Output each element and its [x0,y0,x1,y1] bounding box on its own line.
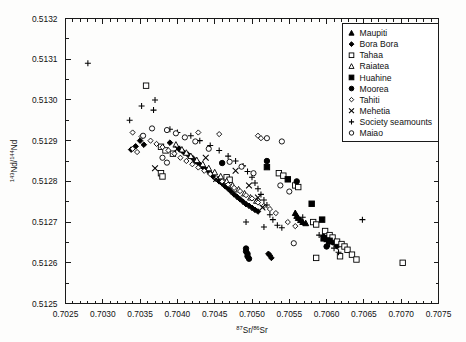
legend-label-bora-bora: Bora Bora [360,39,399,49]
y-tick-label: 0.5125 [32,299,58,309]
data-point [243,219,249,225]
data-point [400,260,405,265]
data-point [203,155,209,161]
data-point [160,155,165,160]
data-point [135,149,140,154]
legend-label-society-seamounts: Society seamounts [360,117,433,127]
data-point [206,146,211,151]
data-point [188,133,194,139]
legend-marker-tahaa [349,53,354,58]
x-tick-label: 0.7055 [276,309,302,319]
legend-marker-maiao [349,131,353,135]
data-point [273,211,278,216]
data-point [264,158,269,163]
data-point [252,180,258,186]
data-point [227,159,232,164]
x-axis-title: 87Sr/86Sr [236,325,268,335]
legend-label-moorea: Moorea [360,84,389,94]
data-point [285,177,290,182]
data-point [149,126,154,131]
x-tick-label: 0.7030 [90,309,116,319]
series-mehetia [152,146,265,210]
data-point [127,117,133,123]
x-tick-label: 0.7045 [202,309,228,319]
data-point [233,158,239,164]
data-point [130,130,135,135]
data-point [359,217,365,223]
legend-label-mehetia: Mehetia [360,106,391,116]
data-point [239,164,244,169]
data-point [293,224,298,229]
x-tick-label: 0.7070 [388,309,414,319]
data-point [216,147,222,153]
y-tick-label: 0.5131 [32,54,58,64]
series-moorea [219,158,329,261]
legend-label-huahine: Huahine [360,73,392,83]
y-tick-label: 0.5126 [32,258,58,268]
data-point [246,256,251,261]
data-point [85,60,91,66]
data-point [151,107,157,113]
data-point [294,179,299,184]
legend-label-maupiti: Maupiti [360,28,388,38]
figure-container: 0.70250.70300.70350.70400.70450.70500.70… [0,0,466,342]
data-point [246,183,252,189]
series-society-seamounts [85,60,366,255]
data-point [267,206,272,211]
data-point [148,138,153,143]
data-point [287,189,292,194]
data-point [292,210,298,216]
data-point [184,158,189,163]
data-point [313,222,318,227]
data-point [270,217,276,223]
legend-label-tahaa: Tahaa [360,50,384,60]
legend-marker-moorea [349,86,354,91]
data-point [178,155,183,160]
x-tick-label: 0.7025 [53,309,79,319]
data-point [264,164,269,169]
data-point [193,139,198,144]
legend-label-tahiti: Tahiti [360,95,380,105]
data-point [152,97,158,103]
data-point [278,183,283,188]
data-point [143,83,148,88]
y-tick-label: 0.5128 [32,176,58,186]
data-point [309,201,314,206]
x-tick-label: 0.7050 [239,309,265,319]
data-point [140,133,145,138]
series-maupiti [292,210,308,226]
data-point [291,241,296,246]
legend-label-raiatea: Raiatea [360,61,390,71]
data-point [233,168,239,174]
legend-label-maiao: Maiao [360,128,384,138]
y-axis-title: 143Nd/144Nd [9,139,19,182]
x-tick-label: 0.7035 [127,309,153,319]
legend-marker-huahine [349,75,354,80]
data-point [267,212,273,218]
data-point [219,160,224,165]
data-point [255,186,261,192]
data-point [173,142,179,148]
data-point [152,165,158,171]
data-point [319,217,324,222]
data-point [217,132,222,137]
y-tick-label: 0.5130 [32,95,58,105]
data-point [164,127,169,132]
data-point [296,184,301,189]
plot-legend: MaupitiBora BoraTahaaRaiateaHuahineMoore… [343,24,439,142]
data-point [164,160,169,165]
data-point [196,130,201,135]
data-point [285,219,290,224]
data-point [279,139,284,144]
data-point [182,135,187,140]
x-tick-label: 0.7075 [426,309,452,319]
data-point [160,174,165,179]
scatter-plot: 0.70250.70300.70350.70400.70450.70500.70… [0,0,466,342]
data-point [167,140,173,146]
y-tick-label: 0.5127 [32,217,58,227]
x-tick-label: 0.7060 [314,309,340,319]
y-tick-label: 0.5129 [32,136,58,146]
y-tick-label: 0.5132 [32,14,58,24]
data-point [261,197,267,203]
data-point [313,255,318,260]
